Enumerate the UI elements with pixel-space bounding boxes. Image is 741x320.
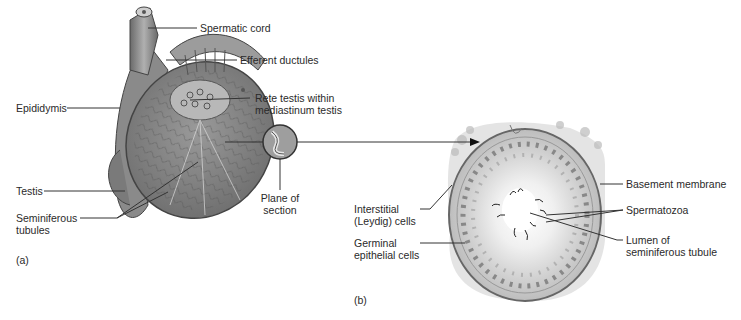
label-germinal-line2: epithelial cells	[354, 249, 419, 261]
label-basement-membrane: Basement membrane	[626, 178, 726, 190]
label-germinal-line1: Germinal	[354, 237, 397, 249]
panel-a-tag: (a)	[16, 254, 29, 266]
label-epididymis: Epididymis	[16, 102, 67, 114]
label-efferent-ductules: Efferent ductules	[240, 54, 319, 66]
plane-of-section-magnifier	[263, 125, 297, 159]
label-testis: Testis	[16, 185, 43, 197]
seminiferous-tubule-cross-section	[448, 121, 605, 301]
label-plane-line2: section	[258, 204, 302, 216]
label-seminiferous-line1: Seminiferous	[16, 212, 77, 224]
label-lumen-line2: seminiferous tubule	[626, 246, 717, 258]
label-plane-line1: Plane of	[258, 192, 302, 204]
label-lumen-line1: Lumen of	[626, 234, 670, 246]
panel-b-tag: (b)	[354, 294, 367, 306]
label-rete-testis-line1: Rete testis within	[255, 92, 334, 104]
label-spermatozoa: Spermatozoa	[626, 204, 688, 216]
label-interstitial-line1: Interstitial	[354, 203, 399, 215]
label-rete-testis-line2: mediastinum testis	[255, 104, 342, 116]
label-spermatic-cord: Spermatic cord	[200, 22, 271, 34]
label-interstitial-line2: (Leydig) cells	[354, 215, 416, 227]
label-seminiferous-line2: tubules	[16, 224, 50, 236]
diagram-artwork	[0, 0, 741, 320]
